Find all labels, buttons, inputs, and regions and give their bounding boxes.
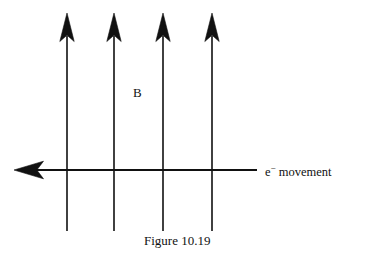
- figure-10-19: B e− movement Figure 10.19: [0, 0, 365, 258]
- figure-background: [0, 0, 365, 258]
- electron-movement-label: e− movement: [265, 164, 332, 179]
- electron-movement-text: movement: [276, 165, 332, 179]
- figure-drawing-canvas: [0, 0, 365, 258]
- magnetic-field-label: B: [133, 86, 142, 99]
- figure-caption: Figure 10.19: [144, 234, 210, 247]
